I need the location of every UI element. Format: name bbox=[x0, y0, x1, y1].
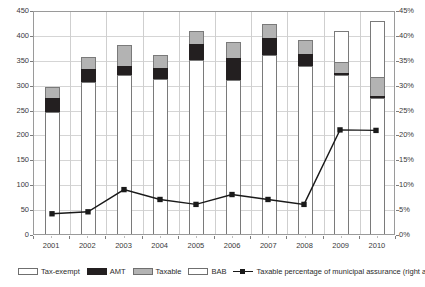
x-axis-tick-label: 2004 bbox=[140, 241, 180, 250]
bar-segment-taxable[interactable] bbox=[298, 40, 313, 54]
left-axis-tick-label: 200 bbox=[3, 131, 29, 139]
category-gridline bbox=[324, 12, 325, 234]
bar-segment-tax-exempt[interactable] bbox=[370, 98, 385, 234]
x-axis-tick-label: 2010 bbox=[357, 241, 397, 250]
right-axis-tick bbox=[396, 86, 399, 87]
legend-item[interactable]: Taxable bbox=[133, 267, 182, 276]
bar-segment-tax-exempt[interactable] bbox=[81, 82, 96, 234]
bar-segment-amt[interactable] bbox=[153, 68, 168, 79]
bar-segment-tax-exempt[interactable] bbox=[298, 66, 313, 234]
legend-item[interactable]: AMT bbox=[87, 267, 126, 276]
right-axis-tick bbox=[396, 111, 399, 112]
bar-group[interactable] bbox=[81, 11, 96, 234]
legend-item-label: Taxable percentage of municipal assuranc… bbox=[256, 267, 425, 276]
bar-group[interactable] bbox=[298, 11, 313, 234]
category-gridline bbox=[215, 12, 216, 234]
bar-segment-taxable[interactable] bbox=[189, 31, 204, 44]
right-axis-tick-label: 15% bbox=[399, 156, 425, 164]
bar-segment-taxable[interactable] bbox=[117, 45, 132, 65]
left-axis-tick-label: 350 bbox=[3, 57, 29, 65]
legend-item[interactable]: Tax-exempt bbox=[18, 267, 80, 276]
x-axis-tick bbox=[250, 236, 251, 239]
x-axis-minor-tick bbox=[124, 236, 125, 238]
right-axis-tick bbox=[396, 235, 399, 236]
right-axis-tick-label: 20% bbox=[399, 131, 425, 139]
right-axis-tick-label: 25% bbox=[399, 107, 425, 115]
bar-segment-taxable[interactable] bbox=[226, 42, 241, 57]
bar-segment-tax-exempt[interactable] bbox=[262, 55, 277, 234]
bar-segment-amt[interactable] bbox=[45, 98, 60, 111]
legend-item[interactable]: Taxable percentage of municipal assuranc… bbox=[233, 267, 425, 276]
bar-group[interactable] bbox=[45, 11, 60, 234]
x-axis-minor-tick bbox=[232, 236, 233, 238]
bar-group[interactable] bbox=[189, 11, 204, 234]
x-axis-minor-tick bbox=[305, 236, 306, 238]
right-axis-tick bbox=[396, 210, 399, 211]
bar-group[interactable] bbox=[153, 11, 168, 234]
bar-segment-tax-exempt[interactable] bbox=[117, 75, 132, 234]
bar-segment-taxable[interactable] bbox=[81, 57, 96, 69]
left-axis-tick-label: 100 bbox=[3, 181, 29, 189]
x-axis-tick bbox=[69, 236, 70, 239]
category-gridline bbox=[287, 12, 288, 234]
amt-swatch bbox=[87, 268, 107, 275]
x-axis-minor-tick bbox=[341, 236, 342, 238]
left-axis-tick-label: 450 bbox=[3, 7, 29, 15]
bar-segment-amt[interactable] bbox=[298, 54, 313, 65]
bar-group[interactable] bbox=[226, 11, 241, 234]
bar-segment-amt[interactable] bbox=[370, 96, 385, 98]
bar-segment-amt[interactable] bbox=[262, 38, 277, 55]
category-gridline bbox=[70, 12, 71, 234]
right-axis-tick bbox=[396, 135, 399, 136]
category-gridline bbox=[360, 12, 361, 234]
chart-container: 050100150200250300350400450 0%5%10%15%20… bbox=[0, 0, 425, 287]
bar-group[interactable] bbox=[370, 11, 385, 234]
right-axis-tick bbox=[396, 185, 399, 186]
bar-segment-bab[interactable] bbox=[370, 21, 385, 77]
x-axis-minor-tick bbox=[268, 236, 269, 238]
category-gridline bbox=[106, 12, 107, 234]
right-axis-tick bbox=[396, 36, 399, 37]
bar-segment-bab[interactable] bbox=[334, 31, 349, 62]
bab-swatch bbox=[188, 268, 208, 275]
bar-segment-tax-exempt[interactable] bbox=[45, 112, 60, 234]
x-axis-tick-label: 2002 bbox=[67, 241, 107, 250]
line-marker-swatch bbox=[233, 268, 253, 275]
right-axis-tick-label: 40% bbox=[399, 32, 425, 40]
legend-item-label: AMT bbox=[110, 267, 126, 276]
bar-segment-taxable[interactable] bbox=[45, 87, 60, 98]
category-gridline bbox=[179, 12, 180, 234]
bar-segment-amt[interactable] bbox=[334, 73, 349, 74]
x-axis-tick bbox=[323, 236, 324, 239]
bar-segment-tax-exempt[interactable] bbox=[153, 79, 168, 234]
legend-item[interactable]: BAB bbox=[188, 267, 226, 276]
legend-item-label: Tax-exempt bbox=[41, 267, 80, 276]
bar-segment-amt[interactable] bbox=[189, 44, 204, 60]
bar-segment-tax-exempt[interactable] bbox=[226, 80, 241, 234]
left-axis-tick-label: 300 bbox=[3, 82, 29, 90]
x-axis-tick-label: 2006 bbox=[212, 241, 252, 250]
bar-segment-taxable[interactable] bbox=[153, 55, 168, 67]
bar-segment-tax-exempt[interactable] bbox=[334, 75, 349, 234]
bar-segment-amt[interactable] bbox=[226, 58, 241, 80]
bar-segment-amt[interactable] bbox=[81, 69, 96, 81]
x-axis-tick-label: 2008 bbox=[285, 241, 325, 250]
x-axis-minor-tick bbox=[87, 236, 88, 238]
right-axis-tick-label: 0% bbox=[399, 231, 425, 239]
right-axis-tick-label: 45% bbox=[399, 7, 425, 15]
bar-segment-taxable[interactable] bbox=[370, 77, 385, 96]
bar-segment-amt[interactable] bbox=[117, 66, 132, 75]
right-axis-tick-label: 5% bbox=[399, 206, 425, 214]
bar-group[interactable] bbox=[334, 11, 349, 234]
bar-group[interactable] bbox=[262, 11, 277, 234]
line-series-path bbox=[52, 130, 376, 214]
left-axis-tick-label: 150 bbox=[3, 156, 29, 164]
left-axis-tick-label: 250 bbox=[3, 107, 29, 115]
bar-group[interactable] bbox=[117, 11, 132, 234]
bar-segment-taxable[interactable] bbox=[262, 24, 277, 38]
bar-segment-tax-exempt[interactable] bbox=[189, 60, 204, 234]
bar-segment-taxable[interactable] bbox=[334, 62, 349, 73]
x-axis-tick-label: 2005 bbox=[176, 241, 216, 250]
x-axis-tick bbox=[178, 236, 179, 239]
x-axis-tick bbox=[359, 236, 360, 239]
